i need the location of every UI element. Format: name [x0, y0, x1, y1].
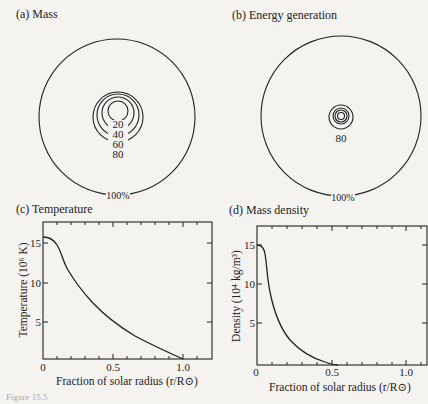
figure-caption: Figure 15.5: [6, 392, 48, 402]
mass-label-100: 100%: [106, 190, 129, 201]
x-tick-1.0: 1.0: [399, 366, 413, 378]
x-axis-label: Fraction of solar radius (r/R⊙): [269, 381, 411, 394]
energy-label-80: 80: [336, 132, 348, 144]
energy-contour-inner2: [335, 110, 347, 122]
y-tick-10: 10: [30, 277, 42, 289]
x-ticks: [257, 226, 427, 365]
y-axis-label: Density (10⁴ kg/m³): [230, 250, 243, 342]
panel-a-mass-diagram: [39, 39, 195, 195]
x-ticks: [43, 222, 212, 359]
y-tick-10: 10: [244, 278, 256, 290]
x-tick-0: 0: [40, 361, 46, 373]
panel-b-energy-diagram: [261, 36, 421, 196]
x-tick-0: 0: [253, 366, 259, 378]
plot-frame: [43, 222, 212, 359]
panel-d-density-plot: 15 10 5 0 0.5 1.0 Fraction of solar radi…: [230, 226, 427, 394]
plot-frame: [257, 226, 427, 365]
x-tick-0.5: 0.5: [325, 366, 339, 378]
mass-label-80: 80: [113, 148, 125, 160]
density-curve: [257, 245, 338, 365]
temperature-curve: [43, 237, 183, 359]
panel-c-temperature-plot: 15 10 5 0 0.5 1.0 Fraction of solar radi…: [17, 222, 212, 388]
x-tick-1.0: 1.0: [176, 361, 190, 373]
panel-b-labels: 80 100%: [331, 132, 355, 203]
figure-canvas: 20 40 60 80 100% 80 100% 15 10 5 0: [0, 0, 428, 404]
y-tick-15: 15: [244, 239, 256, 251]
panel-a-labels: 20 40 60 80 100%: [106, 118, 130, 201]
y-axis-label: Temperature (10⁶ K): [17, 242, 30, 337]
outer-boundary-circle: [39, 39, 195, 195]
outer-boundary-circle: [261, 36, 421, 196]
energy-contour-inner1: [338, 113, 345, 120]
y-tick-15: 15: [30, 237, 42, 249]
x-axis-label: Fraction of solar radius (r/R⊙): [56, 375, 198, 388]
y-tick-5: 5: [36, 316, 42, 328]
y-tick-5: 5: [250, 317, 256, 329]
x-tick-0.5: 0.5: [106, 361, 120, 373]
energy-label-100: 100%: [331, 192, 354, 203]
